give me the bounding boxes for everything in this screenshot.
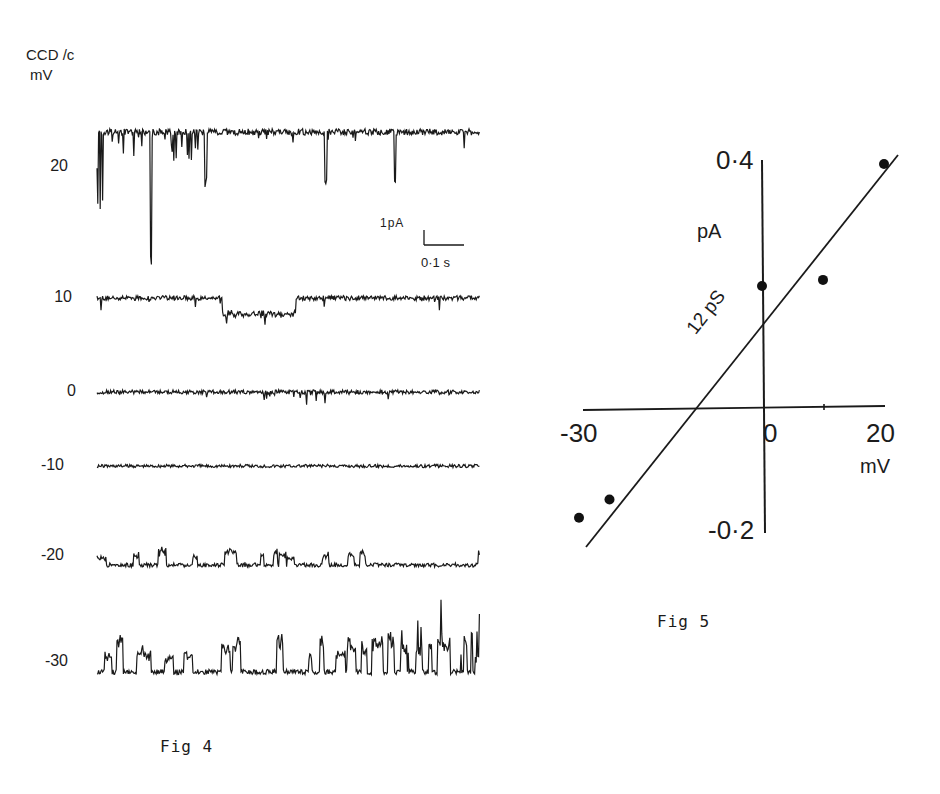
x-unit-label: mV xyxy=(860,455,890,478)
data-points xyxy=(574,159,889,523)
fig5-caption: Fig 5 xyxy=(657,612,710,631)
x-tick-20: 20 xyxy=(866,418,895,449)
x-tick-0: 0 xyxy=(763,418,777,449)
data-point xyxy=(757,281,767,291)
data-point xyxy=(574,513,584,523)
data-point xyxy=(605,495,615,505)
x-tick-minus30: -30 xyxy=(560,418,598,449)
fig5-plot xyxy=(0,0,940,794)
fit-line xyxy=(586,155,898,547)
x-axis xyxy=(583,406,885,410)
y-axis xyxy=(762,160,765,533)
data-point xyxy=(818,275,828,285)
data-point xyxy=(879,159,889,169)
y-tick-0.4: 0·4 xyxy=(716,145,754,176)
y-tick-minus0.2: -0·2 xyxy=(708,515,754,546)
y-unit-label: pA xyxy=(697,220,721,243)
